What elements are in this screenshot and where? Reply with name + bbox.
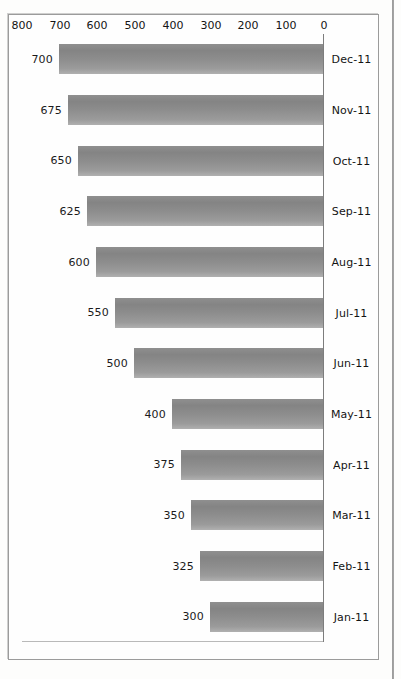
bar-value-label: 600: [69, 256, 91, 269]
bar-value-label: 650: [50, 154, 72, 167]
bar: [181, 450, 323, 480]
bar-value-label: 300: [182, 610, 204, 623]
bar-row: 600: [22, 247, 323, 277]
bar: [87, 196, 323, 226]
axis-tick-0: 0: [321, 19, 328, 32]
bar: [200, 551, 323, 581]
bar-value-label: 350: [163, 509, 185, 522]
bar-row: 650: [22, 146, 323, 176]
bar: [191, 500, 323, 530]
scanned-page: Jan-11Feb-11Mar-11Apr-11May-11Jun-11Jul-…: [0, 0, 401, 679]
bar-row: 325: [22, 551, 323, 581]
bar: [68, 95, 323, 125]
category-label-jul-11: Jul-11: [324, 298, 379, 328]
axis-tick-800: 800: [12, 19, 33, 32]
bar: [97, 247, 324, 277]
axis-tick-200: 200: [238, 19, 259, 32]
category-axis-labels: Jan-11Feb-11Mar-11Apr-11May-11Jun-11Jul-…: [324, 34, 379, 642]
axis-tick-400: 400: [163, 19, 184, 32]
bar-value-label: 500: [107, 357, 129, 370]
bar-row: 350: [22, 500, 323, 530]
bar: [134, 348, 323, 378]
axis-tick-500: 500: [125, 19, 146, 32]
bar-value-label: 550: [88, 306, 110, 319]
bar-row: 375: [22, 450, 323, 480]
bar-value-label: 325: [173, 560, 195, 573]
bar: [172, 399, 323, 429]
category-label-mar-11: Mar-11: [324, 500, 379, 530]
bar-value-label: 700: [31, 53, 53, 66]
category-label-may-11: May-11: [324, 399, 379, 429]
bar: [59, 44, 323, 74]
bar-value-label: 375: [154, 458, 176, 471]
bar-row: 400: [22, 399, 323, 429]
category-label-dec-11: Dec-11: [324, 44, 379, 74]
category-label-sep-11: Sep-11: [324, 196, 379, 226]
axis-tick-700: 700: [49, 19, 70, 32]
axis-tick-300: 300: [200, 19, 221, 32]
bar: [78, 146, 323, 176]
category-label-aug-11: Aug-11: [324, 247, 379, 277]
bar-row: 700: [22, 44, 323, 74]
category-label-feb-11: Feb-11: [324, 551, 379, 581]
value-axis-line: [323, 34, 324, 642]
bar-row: 625: [22, 196, 323, 226]
bar-row: 675: [22, 95, 323, 125]
category-label-jan-11: Jan-11: [324, 602, 379, 632]
category-label-apr-11: Apr-11: [324, 450, 379, 480]
bar-value-label: 400: [144, 408, 166, 421]
bar-row: 550: [22, 298, 323, 328]
category-label-nov-11: Nov-11: [324, 95, 379, 125]
bar-value-label: 625: [59, 205, 81, 218]
plot-area: 300325350375400500550600625650675700: [22, 34, 324, 642]
bar-row: 500: [22, 348, 323, 378]
bar: [115, 298, 323, 328]
value-axis-ticks: 0100200300400500600700800: [22, 14, 324, 34]
bar-series: 300325350375400500550600625650675700: [22, 34, 323, 642]
category-label-jun-11: Jun-11: [324, 348, 379, 378]
bar: [210, 602, 323, 632]
rotated-chart-container: Jan-11Feb-11Mar-11Apr-11May-11Jun-11Jul-…: [8, 14, 379, 660]
page-edge-artifact: [392, 0, 394, 679]
bar-value-label: 675: [41, 104, 63, 117]
bar-row: 300: [22, 602, 323, 632]
axis-tick-600: 600: [87, 19, 108, 32]
category-label-oct-11: Oct-11: [324, 146, 379, 176]
axis-tick-100: 100: [276, 19, 297, 32]
